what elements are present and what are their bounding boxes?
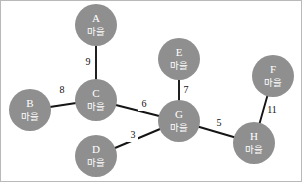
graph-node-c[interactable]: C마을	[75, 79, 117, 121]
node-id-label-h: H	[250, 130, 258, 142]
node-id-label-a: A	[92, 12, 100, 24]
node-sublabel-h: 마을	[245, 144, 263, 155]
graph-node-g[interactable]: G마을	[158, 100, 200, 142]
edge-weight-b-c: 8	[60, 84, 65, 95]
graph-node-f[interactable]: F마을	[252, 55, 294, 97]
node-id-label-d: D	[92, 143, 100, 155]
edge-weight-c-g: 6	[142, 98, 147, 109]
graph-node-e[interactable]: E마을	[158, 38, 200, 80]
node-sublabel-d: 마을	[87, 157, 105, 168]
node-id-label-e: E	[176, 46, 183, 58]
graph-node-d[interactable]: D마을	[75, 135, 117, 177]
graph-node-a[interactable]: A마을	[75, 4, 117, 46]
node-sublabel-a: 마을	[87, 26, 105, 37]
graph-diagram-canvas: A마을B마을C마을D마을E마을F마을G마을H마을 98637511	[0, 0, 302, 182]
edge-weight-d-g: 3	[131, 129, 136, 140]
edge-weight-e-g: 7	[184, 84, 189, 95]
graph-node-b[interactable]: B마을	[9, 89, 51, 131]
node-id-label-f: F	[270, 63, 276, 75]
node-id-label-g: G	[175, 108, 183, 120]
graph-svg: A마을B마을C마을D마을E마을F마을G마을H마을 98637511	[1, 1, 302, 182]
node-sublabel-g: 마을	[170, 122, 188, 133]
node-sublabel-b: 마을	[21, 111, 39, 122]
edge-weight-f-h: 11	[267, 104, 277, 115]
graph-node-h[interactable]: H마을	[233, 122, 275, 164]
node-sublabel-c: 마을	[87, 101, 105, 112]
edge-weight-g-h: 5	[217, 117, 222, 128]
node-id-label-b: B	[26, 97, 33, 109]
node-sublabel-f: 마을	[264, 77, 282, 88]
node-id-label-c: C	[92, 87, 99, 99]
nodes-layer: A마을B마을C마을D마을E마을F마을G마을H마을	[9, 4, 294, 177]
edge-weight-a-c: 9	[86, 56, 91, 67]
node-sublabel-e: 마을	[170, 60, 188, 71]
